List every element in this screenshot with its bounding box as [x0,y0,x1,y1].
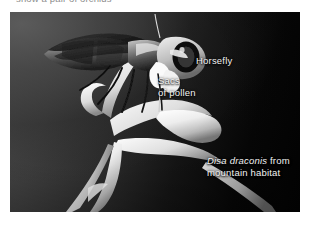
label-species-tail: from [267,155,290,166]
fly-leg-1 [98,68,122,104]
photograph: Horsefly Sacs of pollen Disa draconis fr… [10,12,300,212]
top-caption-text: show a pair of orchids [16,0,296,5]
fly-antenna [155,14,160,38]
label-disa-draconis: Disa draconis from mountain habitat [207,155,290,178]
fly-leg-2 [122,70,134,112]
label-sacs-line2: of pollen [158,87,196,98]
horsefly [10,12,300,212]
label-species-name: Disa draconis [207,155,267,166]
label-sacs-line1: Sacs [158,75,180,86]
label-sacs-of-pollen: Sacs of pollen [158,75,196,98]
fly-leg-3 [142,72,148,112]
label-horsefly: Horsefly [196,55,232,67]
screenshot-root: show a pair of orchids [0,0,313,227]
label-disa-line2: mountain habitat [207,167,280,178]
